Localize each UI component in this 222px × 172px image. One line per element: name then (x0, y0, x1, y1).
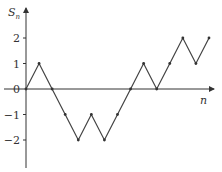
data-point (195, 62, 198, 65)
data-point (77, 139, 80, 142)
data-point (116, 113, 119, 116)
data-point (64, 113, 67, 116)
y-tick-label: 0 (13, 83, 20, 96)
axes (4, 8, 214, 168)
y-tick-label: 2 (13, 32, 20, 45)
data-point (168, 62, 171, 65)
data-point (103, 139, 106, 142)
data-point (25, 88, 28, 91)
y-tick-label: −1 (4, 109, 20, 122)
y-axis-label: Sn (8, 6, 21, 21)
data-point (155, 88, 158, 91)
data-point (38, 62, 41, 65)
x-axis-label: n (200, 94, 207, 107)
data-point (208, 37, 211, 40)
data-point (142, 62, 145, 65)
data-point (129, 88, 132, 91)
data-point (90, 113, 93, 116)
y-tick-label: 1 (13, 58, 20, 71)
y-tick-label: −2 (4, 134, 20, 147)
data-point (181, 37, 184, 40)
random-walk-chart: −2−1012 Sn n (0, 0, 222, 172)
data-point (51, 88, 54, 91)
